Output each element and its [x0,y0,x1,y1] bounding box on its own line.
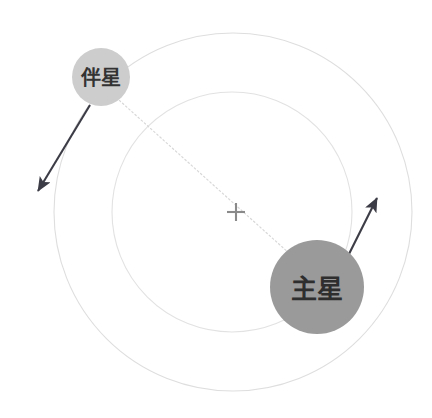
companion-star-label: 伴星 [80,66,122,90]
diagram-background [0,0,432,418]
primary-star: 主星 [270,240,364,334]
binary-star-diagram: 伴星 主星 [0,0,432,418]
diagram-canvas: 伴星 主星 [0,0,432,418]
primary-star-label: 主星 [291,274,344,304]
companion-star: 伴星 [72,48,130,106]
